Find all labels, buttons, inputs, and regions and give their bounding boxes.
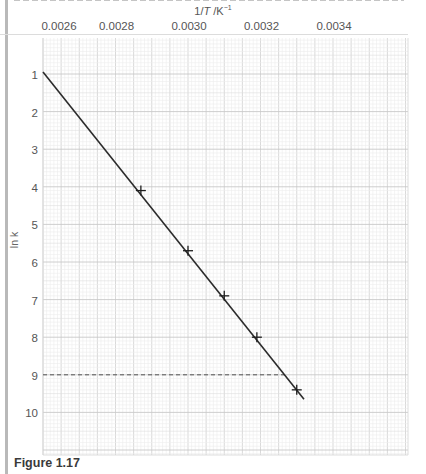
figure-caption: Figure 1.17 (14, 456, 80, 470)
graph-paper-grid (43, 38, 408, 455)
plot-area (0, 0, 426, 474)
